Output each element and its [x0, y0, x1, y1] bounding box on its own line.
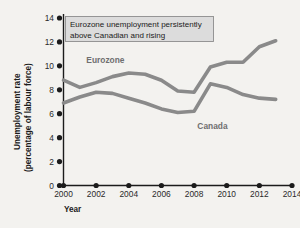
y-tick-dot: [57, 159, 62, 164]
chart-container: 02468101214 2000200220042006200820102012…: [0, 0, 300, 228]
y-tick-dot: [57, 135, 62, 140]
y-axis-ticks: 02468101214: [45, 13, 62, 191]
y-tick-label: 14: [45, 13, 55, 23]
series-label-eurozone: Eurozone: [86, 55, 124, 65]
x-tick-dot: [94, 183, 99, 188]
x-tick-dot: [126, 183, 131, 188]
y-axis-title: Unemployment rate (percentage of labour …: [13, 63, 33, 172]
y-tick-dot: [57, 63, 62, 68]
y-axis-title-line-1: Unemployment rate: [13, 73, 22, 150]
annotation-callout: Eurozone unemployment persistently above…: [66, 17, 214, 42]
y-tick-dot: [57, 87, 62, 92]
x-tick-label: 2012: [250, 189, 269, 199]
x-tick-label: 2000: [54, 189, 73, 199]
x-tick-dot: [159, 183, 164, 188]
x-tick-dot: [224, 183, 229, 188]
x-tick-label: 2006: [152, 189, 171, 199]
x-tick-label: 2014: [283, 189, 300, 199]
y-tick-label: 12: [45, 37, 55, 47]
x-tick-dot: [191, 183, 196, 188]
y-tick-dot: [57, 39, 62, 44]
series-line-canada: [64, 84, 276, 113]
data-series-group: [64, 41, 276, 113]
x-tick-label: 2004: [119, 189, 138, 199]
y-tick-dot: [57, 111, 62, 116]
y-tick-label: 10: [45, 61, 55, 71]
unemployment-rate-line-chart: 02468101214 2000200220042006200820102012…: [0, 0, 300, 228]
y-tick-label: 6: [49, 109, 54, 119]
x-tick-dot: [61, 183, 66, 188]
x-axis-title: Year: [64, 205, 82, 214]
x-tick-dot: [257, 183, 262, 188]
series-line-eurozone: [64, 41, 276, 92]
series-label-canada: Canada: [197, 121, 228, 131]
x-tick-label: 2008: [185, 189, 204, 199]
y-tick-label: 8: [49, 85, 54, 95]
y-tick-dot: [57, 15, 62, 20]
y-axis-title-line-2: (percentage of labour force): [24, 63, 33, 172]
y-tick-label: 2: [49, 157, 54, 167]
x-tick-dot: [289, 183, 294, 188]
annotation-line-2: above Canadian and rising: [70, 31, 165, 40]
y-tick-label: 4: [49, 133, 54, 143]
x-tick-label: 2010: [217, 189, 236, 199]
x-tick-label: 2002: [87, 189, 106, 199]
annotation-line-1: Eurozone unemployment persistently: [70, 20, 202, 29]
